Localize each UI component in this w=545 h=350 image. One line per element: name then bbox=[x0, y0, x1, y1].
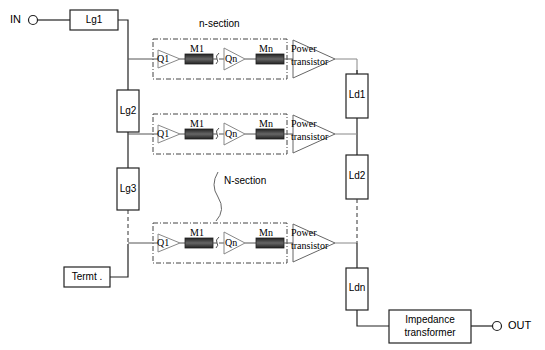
q1-label: Q1 bbox=[157, 128, 169, 139]
power-transistor-label: Powertransistor bbox=[291, 117, 328, 143]
pt-line2: transistor bbox=[291, 56, 328, 67]
q1-label: Q1 bbox=[157, 53, 169, 64]
mn-label: Mn bbox=[259, 118, 273, 129]
output-label: OUT bbox=[508, 319, 531, 331]
m1-label: M1 bbox=[190, 118, 204, 129]
lg3-label: Lg3 bbox=[117, 183, 139, 194]
pt-line1: Power bbox=[291, 227, 317, 238]
n-section-brace-icon bbox=[214, 172, 222, 221]
n-section-label: n-section bbox=[199, 18, 240, 29]
qn-label: Qn bbox=[225, 237, 237, 248]
impedance-label: Impedancetransformer bbox=[389, 313, 471, 339]
m1-label: M1 bbox=[190, 43, 204, 54]
input-port-icon bbox=[29, 16, 38, 25]
ld1-label: Ld1 bbox=[346, 89, 368, 100]
amplifier-block-diagram: IN Lg1 Lg2 Lg3 Termt . n-section N-secti… bbox=[0, 0, 545, 350]
pt-line2: transistor bbox=[291, 131, 328, 142]
m1-label: M1 bbox=[190, 227, 204, 238]
impedance-line2: transformer bbox=[404, 327, 455, 338]
ld2-label: Ld2 bbox=[346, 170, 368, 181]
mn-label: Mn bbox=[259, 227, 273, 238]
pt-line1: Power bbox=[291, 118, 317, 129]
qn-label: Qn bbox=[225, 53, 237, 64]
input-label: IN bbox=[10, 13, 21, 25]
power-transistor-label: Powertransistor bbox=[291, 42, 328, 68]
mn-label: Mn bbox=[259, 43, 273, 54]
impedance-line1: Impedance bbox=[405, 314, 454, 325]
ldn-label: Ldn bbox=[346, 282, 368, 293]
pt-line1: Power bbox=[291, 43, 317, 54]
termination-label: Termt . bbox=[64, 271, 110, 282]
lg1-label: Lg1 bbox=[70, 14, 118, 25]
N-section-label: N-section bbox=[224, 175, 266, 186]
lg2-label: Lg2 bbox=[117, 105, 139, 116]
power-transistor-label: Powertransistor bbox=[291, 226, 328, 252]
pt-line2: transistor bbox=[291, 240, 328, 251]
qn-label: Qn bbox=[225, 128, 237, 139]
output-port-icon bbox=[493, 322, 502, 331]
q1-label: Q1 bbox=[157, 237, 169, 248]
